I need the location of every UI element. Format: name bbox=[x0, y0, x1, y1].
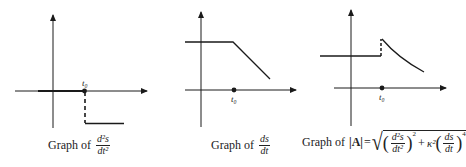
graph-1-caption-prefix: Graph of bbox=[48, 138, 91, 153]
acceleration-magnitude: |A| bbox=[349, 135, 363, 150]
graph-3: t₀ bbox=[320, 10, 446, 126]
fraction-denominator: dt bbox=[444, 144, 454, 155]
left-paren: ( bbox=[435, 134, 441, 152]
fraction-denominator: dt bbox=[260, 146, 270, 157]
fraction-numerator: d²s bbox=[96, 134, 110, 146]
left-paren: ( bbox=[383, 134, 389, 152]
graph-3-caption-prefix: Graph of bbox=[302, 135, 345, 150]
graph-1-t0-dot bbox=[82, 89, 87, 94]
graph-2-speed-curve bbox=[185, 42, 270, 79]
graph-2-caption: Graph of ds dt bbox=[211, 134, 272, 156]
curvature-squared: κ² bbox=[427, 137, 436, 149]
equals-sign: = bbox=[364, 135, 371, 150]
graph-1: t₀ bbox=[15, 15, 147, 128]
radical-sign-icon: √ bbox=[372, 130, 383, 154]
plus-sign: + bbox=[418, 136, 425, 151]
fraction-denominator: dt² bbox=[97, 146, 110, 157]
exponent-1: 2 bbox=[413, 130, 417, 138]
graph-2-caption-fraction: ds dt bbox=[259, 134, 270, 156]
graph-1-t0-label: t₀ bbox=[82, 78, 88, 88]
term2-fraction: ds dt bbox=[443, 132, 454, 154]
term1-fraction: d²s dt² bbox=[391, 132, 405, 154]
fraction-numerator: ds bbox=[259, 134, 270, 146]
square-root-expression: √ ( d²s dt² ) 2 + κ² ( ds dt ) 4 bbox=[372, 130, 466, 154]
graph-2: t₀ bbox=[185, 12, 296, 127]
graph-3-decay-curve bbox=[382, 39, 424, 72]
fraction-numerator: ds bbox=[443, 132, 454, 144]
graph-2-caption-prefix: Graph of bbox=[211, 138, 254, 153]
graph-3-t0-label: t₀ bbox=[379, 92, 385, 102]
graph-1-caption: Graph of d²s dt² bbox=[48, 134, 112, 156]
graph-2-t0-label: t₀ bbox=[231, 94, 237, 104]
graph-3-t0-dot bbox=[380, 86, 385, 91]
graph-3-caption: Graph of |A| = √ ( d²s dt² ) 2 + κ² ( ds… bbox=[302, 130, 466, 154]
radicand: ( d²s dt² ) 2 + κ² ( ds dt ) 4 bbox=[383, 130, 466, 154]
graph-2-t0-dot bbox=[232, 88, 237, 93]
fraction-numerator: d²s bbox=[391, 132, 405, 144]
fraction-denominator: dt² bbox=[391, 144, 404, 155]
graph-1-caption-fraction: d²s dt² bbox=[96, 134, 110, 156]
exponent-2: 4 bbox=[462, 130, 466, 138]
